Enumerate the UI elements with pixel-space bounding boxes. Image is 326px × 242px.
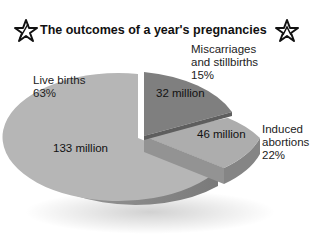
label-name: and stillbirths	[191, 56, 258, 69]
value-induced-abortions: 46 million	[197, 128, 246, 140]
label-live-births: Live births 63%	[33, 74, 85, 100]
value-miscarriages: 32 million	[156, 87, 205, 99]
label-name: Live births	[33, 74, 85, 87]
value-live-births: 133 million	[53, 142, 108, 154]
label-miscarriages: Miscarriages and stillbirths 15%	[191, 43, 258, 82]
label-name: abortions	[262, 136, 309, 149]
label-name: Miscarriages	[191, 43, 258, 56]
label-pct: 22%	[262, 149, 309, 162]
label-pct: 63%	[33, 87, 85, 100]
label-name: Induced	[262, 123, 309, 136]
pie-chart	[0, 0, 326, 242]
label-induced-abortions: Induced abortions 22%	[262, 123, 309, 162]
label-pct: 15%	[191, 69, 258, 82]
